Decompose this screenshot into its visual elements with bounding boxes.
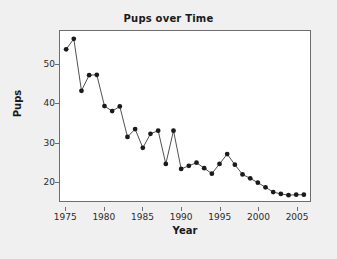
data-point xyxy=(271,190,276,195)
data-point xyxy=(194,160,199,165)
x-axis-label: Year xyxy=(59,225,311,236)
data-point xyxy=(301,192,306,197)
x-tick-label: 1980 xyxy=(87,212,121,222)
x-tick-mark xyxy=(142,207,143,211)
chart-title: Pups over Time xyxy=(0,13,337,24)
y-tick-label: 20 xyxy=(35,177,55,187)
x-tick-mark xyxy=(65,207,66,211)
data-point xyxy=(102,104,107,109)
data-point xyxy=(255,180,260,185)
data-point xyxy=(148,131,153,136)
data-point xyxy=(225,152,230,157)
y-tick-label: 30 xyxy=(35,138,55,148)
data-point xyxy=(179,167,184,172)
data-point xyxy=(294,192,299,197)
data-point xyxy=(232,162,237,167)
x-tick-label: 1985 xyxy=(125,212,159,222)
y-tick-label: 40 xyxy=(35,98,55,108)
data-point xyxy=(133,127,138,132)
data-point xyxy=(248,176,253,181)
data-point xyxy=(79,88,84,93)
data-point xyxy=(278,192,283,197)
y-tick-label: 50 xyxy=(35,59,55,69)
data-point xyxy=(240,172,245,177)
x-axis-ticks: 1975198019851990199520002005 xyxy=(59,207,311,221)
data-point xyxy=(87,73,92,78)
data-point xyxy=(171,128,176,133)
x-tick-mark xyxy=(220,207,221,211)
x-tick-label: 2000 xyxy=(241,212,275,222)
data-point xyxy=(64,47,69,52)
data-point xyxy=(140,145,145,150)
data-point xyxy=(217,162,222,167)
x-tick-label: 1990 xyxy=(164,212,198,222)
x-tick-mark xyxy=(297,207,298,211)
y-axis-label: Pups xyxy=(12,74,23,134)
data-point xyxy=(156,128,161,133)
data-point xyxy=(117,104,122,109)
data-point xyxy=(186,163,191,168)
data-point xyxy=(202,166,207,171)
data-point xyxy=(163,162,168,167)
data-point xyxy=(110,109,115,114)
data-point xyxy=(94,72,99,77)
y-axis-ticks: 20304050 xyxy=(33,30,55,202)
data-point xyxy=(263,185,268,190)
x-tick-mark xyxy=(181,207,182,211)
data-point xyxy=(71,36,76,41)
chart-figure: Pups over Time Pups 20304050 19751980198… xyxy=(0,0,337,259)
x-tick-label: 1995 xyxy=(203,212,237,222)
x-tick-mark xyxy=(258,207,259,211)
x-tick-label: 2005 xyxy=(280,212,314,222)
x-tick-label: 1975 xyxy=(48,212,82,222)
x-tick-mark xyxy=(104,207,105,211)
data-point xyxy=(286,193,291,198)
line-series xyxy=(60,31,310,201)
plot-frame xyxy=(59,30,311,202)
data-point xyxy=(209,171,214,176)
data-point xyxy=(125,135,130,140)
